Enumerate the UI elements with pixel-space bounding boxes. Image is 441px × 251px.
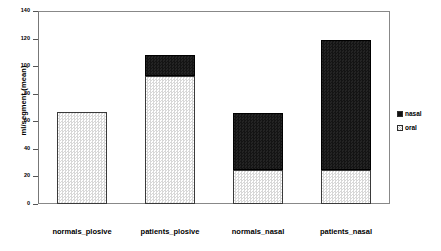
y-tick-label: 80 <box>0 90 30 97</box>
x-category-label: patients_nasal <box>291 227 401 236</box>
y-tick-label: 100 <box>0 62 30 69</box>
bar-group <box>145 11 195 204</box>
bars-layer <box>38 11 390 204</box>
y-tick-label: 140 <box>0 7 30 14</box>
legend-label: oral <box>405 124 417 132</box>
bar-group <box>57 11 107 204</box>
bar-segment-oral <box>233 170 283 204</box>
hatched-square-icon <box>397 125 403 131</box>
bar-group <box>321 11 371 204</box>
y-tick-label: 20 <box>0 172 30 179</box>
bar-segment-oral <box>57 112 107 204</box>
y-tick-mark <box>33 204 38 205</box>
legend-item[interactable]: nasal <box>397 108 441 119</box>
y-tick-label: 0 <box>0 200 30 207</box>
stacked-bar-chart: ml/segment (mean) 020406080100120140 nor… <box>0 0 441 251</box>
black-square-icon <box>397 111 403 117</box>
bar-segment-nasal <box>321 40 371 170</box>
legend-item[interactable]: oral <box>397 122 441 133</box>
bar-segment-oral <box>321 170 371 204</box>
bar-segment-nasal <box>233 113 283 170</box>
y-tick-label: 60 <box>0 117 30 124</box>
y-tick-label: 120 <box>0 35 30 42</box>
chart-legend: nasaloral <box>397 108 441 136</box>
y-tick-label: 40 <box>0 145 30 152</box>
bar-segment-oral <box>145 76 195 204</box>
bar-segment-nasal <box>145 55 195 76</box>
legend-label: nasal <box>405 110 422 118</box>
bar-group <box>233 11 283 204</box>
